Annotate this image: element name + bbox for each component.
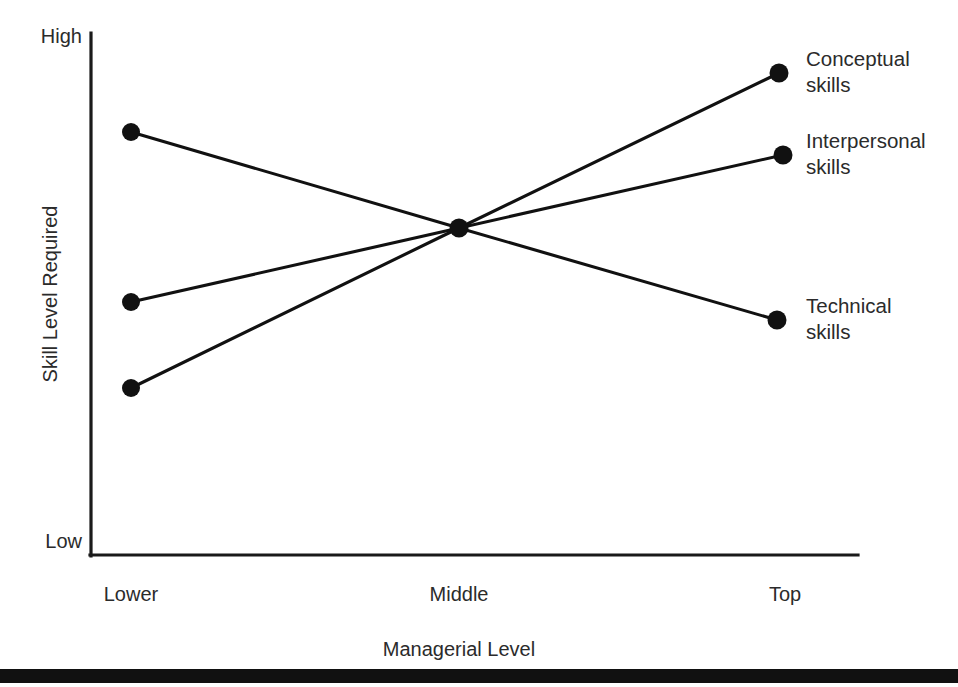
x-axis-title: Managerial Level — [383, 638, 535, 660]
figure-container: High Low Skill Level Required Lower Midd… — [0, 0, 958, 687]
data-point-interpersonal-lower[interactable] — [122, 293, 140, 311]
data-point-conceptual-top[interactable] — [770, 64, 789, 83]
series-label-conceptual-line1: Conceptual — [806, 47, 910, 70]
series-label-interpersonal-line2: skills — [806, 155, 850, 178]
page-footer-bar — [0, 669, 958, 683]
y-tick-label-high: High — [41, 25, 82, 47]
data-point-middle-intersection[interactable] — [450, 219, 469, 238]
x-tick-label-lower: Lower — [104, 583, 159, 605]
page-bottom-edge — [0, 683, 958, 687]
data-point-conceptual-lower[interactable] — [122, 379, 140, 397]
series-label-technical-line2: skills — [806, 320, 850, 343]
x-tick-label-middle: Middle — [430, 583, 489, 605]
series-label-interpersonal-line1: Interpersonal — [806, 129, 926, 152]
data-point-technical-lower[interactable] — [122, 123, 140, 141]
data-point-technical-top[interactable] — [768, 311, 787, 330]
series-label-conceptual-line2: skills — [806, 73, 850, 96]
data-point-interpersonal-top[interactable] — [774, 146, 793, 165]
skill-level-line-chart: High Low Skill Level Required Lower Midd… — [0, 0, 958, 687]
y-tick-label-low: Low — [45, 530, 82, 552]
y-axis-title: Skill Level Required — [39, 206, 61, 383]
x-tick-label-top: Top — [769, 583, 801, 605]
series-label-technical-line1: Technical — [806, 294, 891, 317]
